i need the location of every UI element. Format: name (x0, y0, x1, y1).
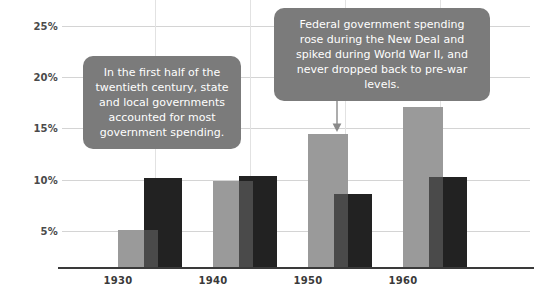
x-axis-tick-1930: 1930 (78, 275, 158, 286)
bar-overlap-1960 (429, 177, 443, 267)
y-axis-tick-25: 25% (4, 21, 58, 32)
x-axis-tick-1940: 1940 (173, 275, 253, 286)
x-axis-line (58, 267, 534, 269)
bar-chart: 25% 20% 15% 10% 5% (0, 0, 542, 304)
y-axis-tick-15: 15% (4, 123, 58, 134)
y-axis: 25% 20% 15% 10% 5% (0, 0, 58, 268)
annotation-callout-federal: Federal government spending rose during … (274, 8, 490, 101)
y-axis-tick-5: 5% (4, 226, 58, 237)
x-axis-tick-1960: 1960 (363, 275, 443, 286)
bar-overlap-1940 (239, 181, 253, 267)
bar-overlap-1930 (144, 230, 158, 267)
x-axis-tick-1950: 1950 (268, 275, 348, 286)
annotation-callout-state-local: In the first half of the twentieth centu… (83, 56, 241, 149)
bar-overlap-1950 (334, 194, 348, 267)
y-axis-tick-20: 20% (4, 72, 58, 83)
y-axis-tick-10: 10% (4, 175, 58, 186)
